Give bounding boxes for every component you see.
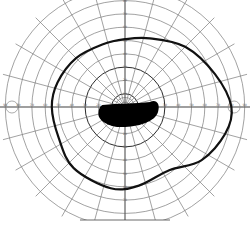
v-tick-label: 20 — [123, 78, 127, 82]
v-tick-label: 80 — [123, 0, 127, 3]
h-tick-label: 30 — [163, 103, 167, 107]
meridian-45 — [128, 18, 215, 105]
v-tick-label: 10 — [123, 92, 127, 96]
meridian-135 — [36, 18, 123, 105]
h-tick-label: 90 — [243, 103, 247, 107]
v-tick-label: 40 — [123, 158, 127, 162]
h-tick-label: 40 — [176, 103, 180, 107]
visual-field-chart: 908070605040302010102030405060708090 908… — [0, 0, 250, 226]
v-tick-label: 70 — [123, 12, 127, 16]
meridian-165 — [3, 74, 121, 106]
h-tick-label: 70 — [216, 103, 220, 107]
v-tick-label: 30 — [123, 65, 127, 69]
meridian-300 — [127, 110, 188, 216]
v-tick-label: 70 — [123, 198, 127, 202]
meridian-30 — [128, 44, 234, 105]
v-tick-label: 20 — [123, 132, 127, 136]
h-tick-label: 60 — [43, 103, 47, 107]
h-tick-label: 30 — [83, 103, 87, 107]
meridian-285 — [126, 111, 158, 226]
h-tick-label: 40 — [70, 103, 74, 107]
v-tick-label: 40 — [123, 52, 127, 56]
h-tick-label: 50 — [56, 103, 60, 107]
h-tick-label: 60 — [203, 103, 207, 107]
h-tick-label: 70 — [30, 103, 34, 107]
h-tick-label: 20 — [96, 103, 100, 107]
meridian-255 — [92, 111, 124, 226]
meridian-150 — [16, 44, 122, 105]
v-tick-label: 30 — [123, 145, 127, 149]
h-tick-label: 50 — [189, 103, 193, 107]
v-tick-label: 50 — [123, 172, 127, 176]
central-scotoma — [98, 101, 158, 127]
v-tick-label: 60 — [123, 25, 127, 29]
